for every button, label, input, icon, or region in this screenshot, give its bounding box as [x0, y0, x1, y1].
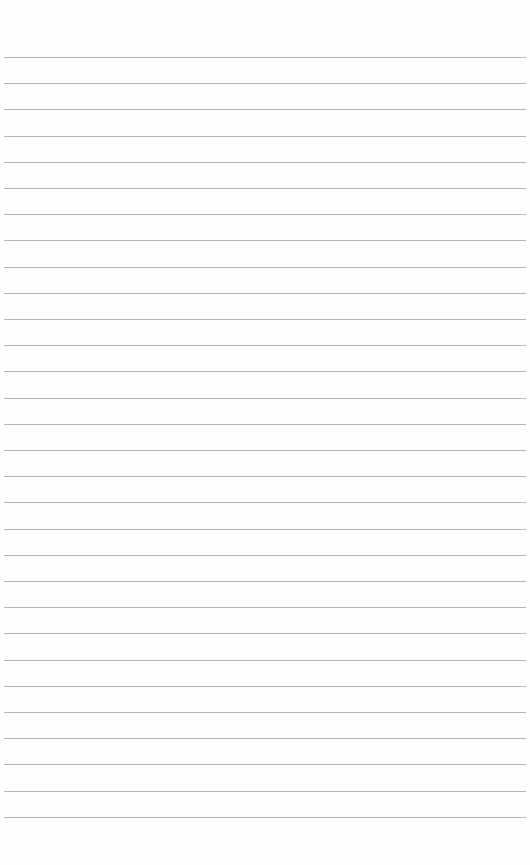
ruled-line: [4, 476, 526, 477]
ruled-line: [4, 738, 526, 739]
ruled-line: [4, 267, 526, 268]
ruled-line: [4, 581, 526, 582]
ruled-line: [4, 791, 526, 792]
ruled-line: [4, 240, 526, 241]
ruled-line: [4, 555, 526, 556]
ruled-line: [4, 607, 526, 608]
ruled-line: [4, 57, 526, 58]
ruled-line: [4, 529, 526, 530]
ruled-line: [4, 817, 526, 818]
ruled-line: [4, 633, 526, 634]
ruled-line: [4, 502, 526, 503]
ruled-line: [4, 424, 526, 425]
ruled-line: [4, 345, 526, 346]
ruled-line: [4, 398, 526, 399]
ruled-line: [4, 162, 526, 163]
ruled-line: [4, 660, 526, 661]
ruled-line: [4, 293, 526, 294]
ruled-line: [4, 136, 526, 137]
ruled-line: [4, 764, 526, 765]
ruled-line: [4, 83, 526, 84]
ruled-line: [4, 371, 526, 372]
ruled-line: [4, 686, 526, 687]
ruled-line: [4, 712, 526, 713]
ruled-line: [4, 450, 526, 451]
ruled-line: [4, 109, 526, 110]
ruled-line: [4, 214, 526, 215]
ruled-line: [4, 188, 526, 189]
ruled-line: [4, 319, 526, 320]
